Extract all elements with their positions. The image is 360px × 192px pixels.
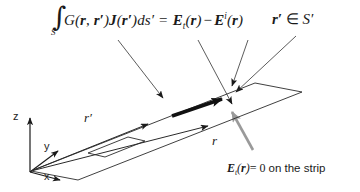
leader-line-boundary-condition: [232, 112, 253, 150]
integral-equation: ∫ S′ G(r, r′)J(r′)ds′=Et(r)−Ei(r): [52, 7, 243, 37]
leader-line-current: [118, 40, 163, 98]
axis-label-x: x: [44, 170, 50, 182]
leader-line-incident-field: [232, 40, 248, 86]
surface-measure: ds′: [137, 12, 154, 28]
domain-membership: r′ ∈ S′: [272, 10, 313, 28]
bc-field-symbol: E: [227, 161, 235, 175]
current-symbol: J: [109, 12, 117, 28]
figure-canvas: ∫ S′ G(r, r′)J(r′)ds′=Et(r)−Ei(r) r′ ∈ S…: [0, 0, 360, 192]
equation-minus: −: [202, 12, 215, 28]
leader-line-group: [118, 36, 296, 150]
vector-label-r-prime: r′: [84, 110, 92, 126]
bc-note-text: on the strip: [269, 162, 326, 174]
integral-lower-limit: S′: [51, 27, 58, 37]
axis-label-y: y: [44, 140, 50, 152]
greens-function-comma: ,: [86, 12, 94, 28]
bc-equals: = 0: [250, 161, 266, 175]
vector-r: [31, 126, 208, 171]
total-field-symbol: E: [173, 12, 183, 28]
integral-operator: ∫ S′: [52, 7, 64, 37]
current-argument: r′: [122, 12, 132, 28]
membership-variable: r′: [272, 11, 282, 27]
membership-domain: S′: [303, 11, 314, 27]
incident-field-close-paren: ): [238, 12, 243, 28]
vector-r-line: [31, 126, 208, 171]
current-arrow-J: [172, 99, 222, 116]
current-arrow-J-line: [172, 99, 222, 116]
integral-sign: ∫: [52, 3, 66, 30]
boundary-condition-note: Et(r)= 0 on the strip: [227, 161, 325, 177]
total-field-close-paren: ): [196, 12, 201, 28]
greens-function-arg-r-prime: r′: [94, 12, 104, 28]
equation-relation: =: [154, 12, 173, 28]
greens-function-open: G(: [64, 12, 80, 28]
axis-label-z: z: [13, 110, 19, 122]
membership-operator: ∈: [286, 11, 299, 27]
incident-field-symbol: E: [214, 12, 224, 28]
leader-line-source-domain: [236, 36, 296, 92]
vector-label-r: r: [212, 133, 217, 149]
